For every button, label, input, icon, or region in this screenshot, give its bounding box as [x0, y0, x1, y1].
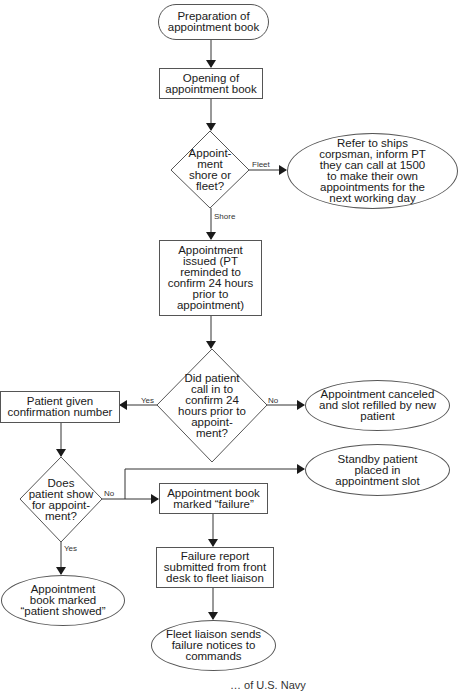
decision-show: Does patient show for appoint- ment?: [20, 457, 102, 542]
opening-book-label: Opening of appointment book: [161, 73, 261, 95]
appointment-issued-label: Appointment issued (PT reminded to confi…: [163, 245, 259, 311]
edge-label-fleet: Fleet: [252, 161, 270, 169]
edge-label-confirm-yes: Yes: [141, 397, 154, 405]
decision-confirm-label: Did patient call in to confirm 24 hours …: [178, 373, 246, 439]
fleet-notices-label: Fleet liaison sends failure notices to c…: [164, 629, 264, 662]
edge-label-shore: Shore: [214, 213, 235, 221]
edge-label-confirm-no: No: [268, 397, 278, 405]
decision-shore-fleet-label: Appoint- ment shore or fleet?: [189, 148, 232, 192]
fleet-notices-ellipse: Fleet liaison sends failure notices to c…: [151, 620, 276, 671]
start-terminal: Preparation of appointment book: [158, 4, 269, 40]
canceled-label: Appointment canceled and slot refilled b…: [319, 389, 437, 422]
decision-shore-fleet: Appoint- ment shore or fleet?: [171, 131, 249, 208]
patient-showed-label: Appointment book marked “patient showed”: [17, 584, 109, 617]
opening-book-box: Opening of appointment book: [159, 68, 263, 99]
footer-caption-fragment: … of U.S. Navy: [230, 679, 306, 691]
edge-label-show-no: No: [104, 490, 114, 498]
marked-failure-label: Appointment book marked “failure”: [162, 488, 266, 510]
patient-showed-ellipse: Appointment book marked “patient showed”: [1, 575, 125, 626]
failure-report-box: Failure report submitted from front desk…: [156, 547, 274, 588]
decision-confirm: Did patient call in to confirm 24 hours …: [157, 349, 267, 462]
refer-corpsman-ellipse: Refer to ships corpsman, inform PT they …: [287, 133, 458, 209]
confirmation-number-box: Patient given confirmation number: [0, 391, 120, 423]
start-label: Preparation of appointment book: [166, 11, 261, 33]
marked-failure-box: Appointment book marked “failure”: [159, 483, 268, 514]
decision-show-label: Does patient show for appoint- ment?: [29, 478, 94, 522]
appointment-issued-box: Appointment issued (PT reminded to confi…: [159, 240, 262, 316]
refer-corpsman-label: Refer to ships corpsman, inform PT they …: [314, 138, 432, 204]
failure-report-label: Failure report submitted from front desk…: [159, 551, 271, 584]
confirmation-number-label: Patient given confirmation number: [3, 396, 117, 418]
edge-label-show-yes: Yes: [64, 545, 77, 553]
standby-label: Standby patient placed in appointment sl…: [328, 454, 428, 487]
standby-ellipse: Standby patient placed in appointment sl…: [305, 444, 450, 496]
canceled-ellipse: Appointment canceled and slot refilled b…: [305, 380, 450, 431]
